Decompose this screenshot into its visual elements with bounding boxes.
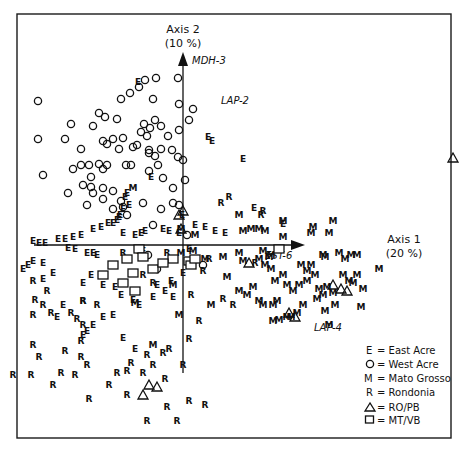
point-label: E [162, 286, 168, 296]
point-label: E [98, 222, 104, 232]
point-circle-icon [117, 95, 124, 102]
point-label: R [186, 396, 193, 406]
point-label: M [207, 300, 216, 310]
point-label: E [70, 232, 76, 242]
axis-2-label: Axis 2 [166, 23, 199, 36]
point-square-icon [130, 287, 140, 295]
point-label: M [131, 298, 140, 308]
point-circle-icon [109, 205, 116, 212]
point-label: R [86, 394, 93, 404]
point-circle-icon [157, 145, 164, 152]
point-label: M [219, 252, 228, 262]
point-label: R [50, 380, 57, 390]
point-label: M [267, 264, 276, 274]
point-label: M [223, 272, 232, 282]
point-label: R [144, 350, 151, 360]
point-label: E [192, 220, 198, 230]
point-label: E [40, 274, 46, 284]
point-label: M [279, 216, 288, 226]
point-label: E [40, 258, 46, 268]
point-label: M [375, 264, 384, 274]
point-label: R [30, 310, 37, 320]
legend-symbol-m: M [364, 373, 373, 384]
point-label: R [58, 368, 65, 378]
point-label: R [220, 294, 227, 304]
point-triangle-icon [144, 380, 154, 389]
point-circle-icon [115, 145, 122, 152]
axis-1-percent: (20 %) [386, 247, 423, 260]
point-label: M [331, 300, 340, 310]
point-label: E [170, 292, 176, 302]
point-label: R [206, 254, 213, 264]
point-circle-icon [101, 113, 108, 120]
point-label: M [335, 248, 344, 258]
point-label: E [72, 244, 78, 254]
point-label: E [42, 238, 48, 248]
scatter-plot: Axis 1 (20 %) Axis 2 (10 %) MDH-3 LAP-2 … [0, 0, 463, 451]
point-label: E [54, 312, 60, 322]
point-label: R [188, 290, 195, 300]
point-circle-icon [164, 132, 171, 139]
point-circle-icon [99, 165, 106, 172]
point-label: M [325, 320, 334, 330]
point-label: E [132, 344, 138, 354]
point-label: R [28, 370, 35, 380]
point-circle-icon [87, 173, 94, 180]
axis-2-percent: (10 %) [165, 37, 202, 50]
point-label: R [174, 416, 181, 426]
point-circle-icon [113, 115, 120, 122]
point-label: M [359, 284, 368, 294]
point-square-icon [148, 265, 158, 273]
point-label: M [235, 286, 244, 296]
point-circle-icon [127, 161, 134, 168]
point-label: R [48, 308, 55, 318]
point-label: R [62, 346, 69, 356]
point-label: E [222, 228, 228, 238]
point-label: E [150, 292, 156, 302]
point-label: E [120, 333, 126, 343]
point-circle-icon [175, 126, 182, 133]
point-circle-icon [95, 160, 102, 167]
point-label: E [110, 310, 116, 320]
legend-label-rondonia: = Rondonia [377, 387, 435, 398]
legend-symbol-e: E [366, 345, 372, 356]
point-label: R [124, 390, 131, 400]
point-label: E [166, 226, 172, 236]
point-label: E [212, 226, 218, 236]
point-label: R [32, 295, 39, 305]
point-label: E [90, 224, 96, 234]
point-square-icon [138, 253, 148, 261]
point-square-icon [108, 261, 118, 269]
point-label: M [175, 310, 184, 320]
point-circle-icon [189, 105, 196, 112]
point-label: R [226, 192, 233, 202]
point-label: E [78, 230, 84, 240]
point-label: R [200, 266, 207, 276]
axis-1-label: Axis 1 [387, 233, 420, 246]
point-circle-icon [154, 161, 161, 168]
point-label: R [150, 278, 157, 288]
point-label: R [140, 368, 147, 378]
point-circle-icon [69, 165, 76, 172]
point-label: M [309, 222, 318, 232]
point-circle-icon [119, 134, 126, 141]
point-label: E [100, 312, 106, 322]
point-label: M [269, 300, 278, 310]
point-label: R [166, 344, 173, 354]
annotation-mdh3: MDH-3 [192, 55, 226, 66]
point-label: E [65, 243, 71, 253]
legend-label-mt-vb: = MT/VB [377, 415, 421, 426]
point-label: R [180, 360, 187, 370]
point-circle-icon [85, 161, 92, 168]
point-label: E [180, 268, 186, 278]
point-label: R [106, 380, 113, 390]
axis-2-arrowhead-icon [178, 52, 188, 66]
point-label: R [230, 300, 237, 310]
point-label: R [30, 276, 37, 286]
point-triangle-icon [448, 153, 458, 162]
point-label: M [325, 228, 334, 238]
point-circle-icon [89, 122, 96, 129]
point-label: R [84, 360, 91, 370]
point-circle-icon [61, 135, 68, 142]
point-label: R [94, 300, 101, 310]
